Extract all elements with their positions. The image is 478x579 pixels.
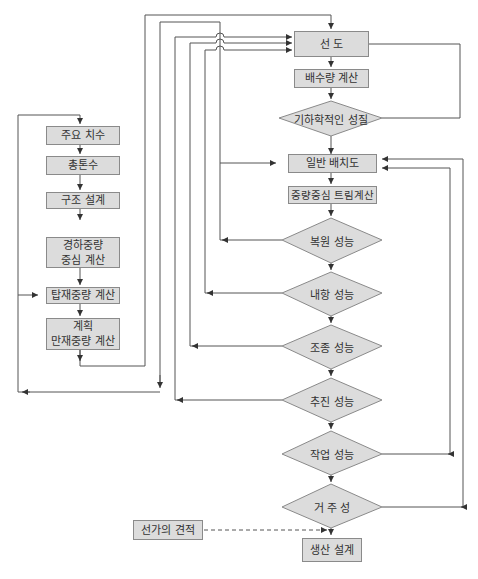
label-operability: 작업 성능	[282, 445, 382, 462]
label-habitability: 거 주 성	[282, 498, 382, 515]
box-lines: 선 도	[294, 31, 369, 57]
box-full-load-calc: 계획 만재중량 계산	[46, 318, 120, 350]
box-main-dimensions: 주요 치수	[46, 126, 120, 145]
box-payload-calc: 탑재중량 계산	[46, 287, 120, 304]
label-seakeeping: 내항 성능	[282, 285, 382, 302]
box-cost-estimate: 선가의 견적	[133, 520, 203, 540]
box-production-design: 생산 설계	[302, 538, 362, 562]
box-displacement: 배수량 계산	[294, 69, 369, 88]
box-lightweight-cg: 경하중량 중심 계산	[46, 237, 120, 268]
label-propulsion: 추진 성능	[282, 392, 382, 409]
label-stability: 복원 성능	[282, 232, 382, 249]
ship-design-flowchart: 선 도 배수량 계산 기하학적인 성질 일반 배치도 중량중심 트림계산 복원 …	[0, 0, 478, 579]
box-tonnage: 총톤수	[46, 156, 120, 175]
box-cg-trim: 중량중심 트림계산	[288, 186, 377, 204]
box-general-arrangement: 일반 배치도	[288, 154, 377, 173]
label-geometric-props: 기하학적인 성질	[279, 110, 383, 127]
box-structural-design: 구조 설계	[46, 192, 120, 209]
label-maneuvering: 조종 성능	[282, 338, 382, 355]
